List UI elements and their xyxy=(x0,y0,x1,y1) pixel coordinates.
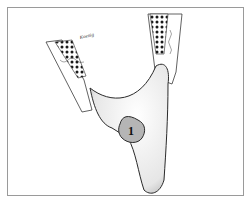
figure-caption xyxy=(8,198,248,206)
tooth-illustration: 1 Koenig xyxy=(0,0,251,207)
left-bone-socket xyxy=(46,40,92,112)
label-number: 1 xyxy=(128,124,134,138)
artist-signature: Koenig xyxy=(78,32,95,40)
